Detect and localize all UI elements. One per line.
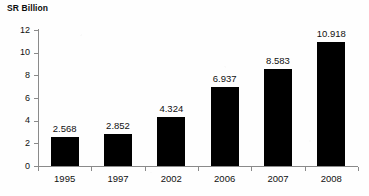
x-axis-label-2007: 2007 (248, 174, 308, 184)
y-axis-tick-label: 10 (8, 48, 30, 57)
chart-title: SR Billion (7, 3, 48, 13)
x-axis-label-2006: 2006 (195, 174, 255, 184)
bar-value-label: 4.324 (141, 104, 201, 114)
x-axis-tick (91, 167, 92, 171)
x-axis-label-1995: 1995 (35, 174, 95, 184)
bar-2007 (264, 69, 292, 166)
x-axis-tick (38, 167, 39, 171)
bar-2008 (317, 42, 345, 166)
y-axis-tick-label: 0 (8, 162, 30, 171)
y-axis-tick-label: 2 (8, 139, 30, 148)
x-axis-tick (145, 167, 146, 171)
bar-value-label: 8.583 (248, 56, 308, 66)
bar-chart: SR Billion 024681012 2.5682.8524.3246.93… (0, 0, 369, 196)
y-axis-tick-label: 8 (8, 71, 30, 80)
bar-value-label: 2.852 (88, 121, 148, 131)
plot-area (38, 30, 358, 166)
x-axis-label-1997: 1997 (88, 174, 148, 184)
bar-1997 (104, 134, 132, 166)
x-axis-tick (251, 167, 252, 171)
x-axis-tick (198, 167, 199, 171)
x-axis-tick (305, 167, 306, 171)
y-axis-tick-label: 4 (8, 116, 30, 125)
bar-value-label: 6.937 (195, 74, 255, 84)
bar-value-label: 10.918 (301, 29, 361, 39)
x-axis-label-2008: 2008 (301, 174, 361, 184)
x-axis-tick (358, 167, 359, 171)
bar-2002 (157, 117, 185, 166)
x-axis-label-2002: 2002 (141, 174, 201, 184)
bar-value-label: 2.568 (35, 124, 95, 134)
bar-2006 (211, 87, 239, 166)
y-axis-tick-label: 6 (8, 94, 30, 103)
y-axis-tick-label: 12 (8, 26, 30, 35)
bar-1995 (51, 137, 79, 166)
